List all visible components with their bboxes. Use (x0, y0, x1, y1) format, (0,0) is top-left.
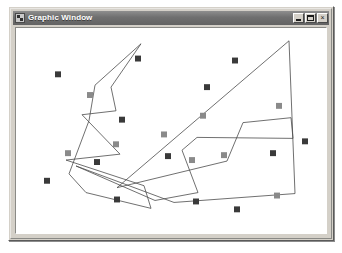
graphic-window-icon (15, 13, 25, 23)
point-marker[interactable] (94, 159, 100, 165)
close-button[interactable] (317, 13, 328, 23)
screen: Graphic Window (0, 0, 342, 253)
point-marker[interactable] (165, 153, 171, 159)
drawing-canvas[interactable] (15, 27, 327, 234)
point-marker[interactable] (87, 92, 93, 98)
point-marker[interactable] (55, 71, 61, 77)
point-marker[interactable] (65, 150, 71, 156)
polygon-layer (66, 41, 295, 209)
point-marker[interactable] (274, 193, 280, 199)
point-marker[interactable] (44, 178, 50, 184)
point-marker[interactable] (113, 141, 119, 147)
left-polygon (66, 44, 151, 209)
point-marker[interactable] (114, 197, 120, 203)
point-marker[interactable] (135, 56, 141, 62)
point-marker[interactable] (276, 103, 282, 109)
point-marker[interactable] (161, 131, 167, 137)
minimize-button[interactable] (293, 13, 304, 23)
point-marker[interactable] (193, 199, 199, 205)
point-marker[interactable] (204, 84, 210, 90)
window-title: Graphic Window (28, 13, 293, 23)
right-polygon (76, 41, 295, 203)
point-marker[interactable] (119, 117, 125, 123)
point-marker[interactable] (200, 113, 206, 119)
window-controls (293, 13, 328, 23)
window-inner-frame: Graphic Window (10, 8, 332, 239)
title-bar[interactable]: Graphic Window (13, 11, 329, 25)
point-marker[interactable] (302, 138, 308, 144)
point-marker[interactable] (270, 150, 276, 156)
maximize-icon (307, 15, 314, 21)
close-icon (319, 15, 326, 21)
point-marker[interactable] (221, 152, 227, 158)
canvas-svg (16, 28, 326, 233)
point-marker[interactable] (232, 58, 238, 64)
maximize-button[interactable] (305, 13, 316, 23)
graphic-window[interactable]: Graphic Window (8, 6, 334, 241)
minimize-icon (296, 19, 301, 21)
point-marker[interactable] (189, 157, 195, 163)
point-marker[interactable] (234, 206, 240, 212)
